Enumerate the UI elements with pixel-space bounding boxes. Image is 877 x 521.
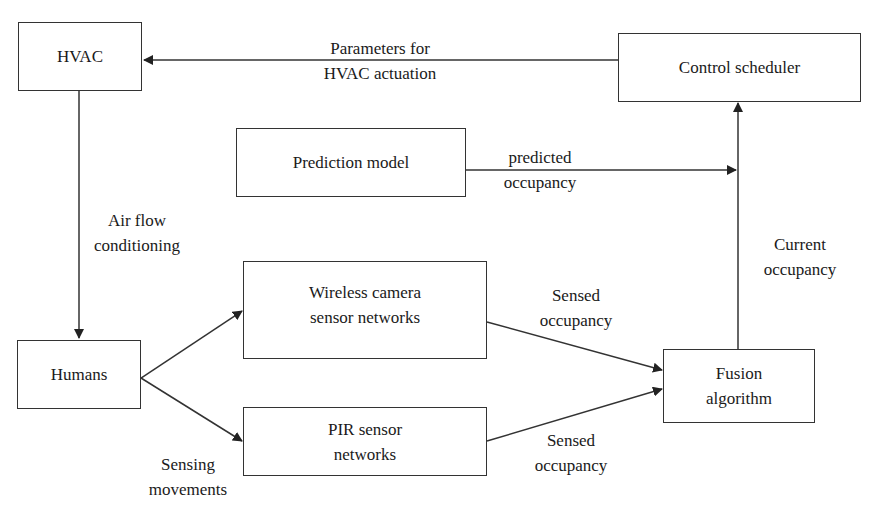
node-fusion-line2: algorithm <box>706 386 772 411</box>
edge-label-line: movements <box>138 477 238 502</box>
node-pir-line1: PIR sensor <box>328 417 402 442</box>
edge-label-sensed-occupancy-camera: Sensed occupancy <box>526 283 626 333</box>
edge-label-line: occupancy <box>526 308 626 333</box>
node-control-scheduler-label: Control scheduler <box>679 55 800 80</box>
edge-label-line: Sensing <box>138 452 238 477</box>
node-humans: Humans <box>17 340 141 409</box>
edge-label-line: occupancy <box>490 170 590 195</box>
node-wireless-camera-sensor-networks: Wireless camera sensor networks <box>243 261 487 359</box>
node-hvac-label: HVAC <box>57 44 103 69</box>
node-pir-sensor-networks: PIR sensor networks <box>243 407 487 476</box>
edge-label-line: predicted <box>490 145 590 170</box>
node-control-scheduler: Control scheduler <box>618 33 861 102</box>
edge-label-line: Current <box>745 232 855 257</box>
node-prediction-model: Prediction model <box>236 128 466 197</box>
edge-label-current-occupancy: Current occupancy <box>745 232 855 282</box>
node-humans-label: Humans <box>51 362 108 387</box>
edge-label-line: Air flow <box>82 208 192 233</box>
node-hvac: HVAC <box>18 22 142 91</box>
arrow-humans-to-camera <box>141 311 242 378</box>
edge-label-sensing-movements: Sensing movements <box>138 452 238 502</box>
arrow-humans-to-pir <box>141 378 242 441</box>
edge-label-line: conditioning <box>82 233 192 258</box>
node-wireless-camera-line2: sensor networks <box>309 305 421 330</box>
edge-label-line: Sensed <box>526 283 626 308</box>
node-pir-line2: networks <box>328 442 402 467</box>
edge-label-line: occupancy <box>521 453 621 478</box>
edge-label-line: occupancy <box>745 257 855 282</box>
edge-label-air-flow-conditioning: Air flow conditioning <box>82 208 192 258</box>
node-prediction-model-label: Prediction model <box>293 150 410 175</box>
edge-label-params-for-hvac: Parameters for HVAC actuation <box>300 36 460 86</box>
edge-label-sensed-occupancy-pir: Sensed occupancy <box>521 428 621 478</box>
edge-label-line: Sensed <box>521 428 621 453</box>
edge-label-predicted-occupancy: predicted occupancy <box>490 145 590 195</box>
edge-label-line: Parameters for <box>300 36 460 61</box>
edge-label-line: HVAC actuation <box>300 61 460 86</box>
node-fusion-line1: Fusion <box>706 361 772 386</box>
node-fusion-algorithm: Fusion algorithm <box>663 349 815 423</box>
node-wireless-camera-line1: Wireless camera <box>309 280 421 305</box>
